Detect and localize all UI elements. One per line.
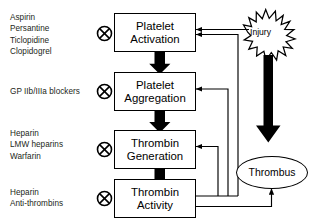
drug-label-line: GP IIb/IIIa blockers bbox=[10, 86, 80, 97]
node-thrombin-activity: Thrombin Activity bbox=[114, 179, 196, 218]
inhibition-marker-thrombin-activity bbox=[98, 192, 112, 206]
node-label-line: Thrombin bbox=[131, 186, 179, 199]
node-thrombus: Thrombus bbox=[236, 156, 308, 189]
drug-group-antiplatelet-agents: Aspirin Persantine Ticlopidine Clopidogr… bbox=[10, 12, 52, 58]
inhibition-marker-thrombin-generation bbox=[98, 143, 112, 157]
drug-group-anticoagulants: Heparin LMW heparins Warfarin bbox=[10, 128, 63, 162]
edge-thrombin-activity-to-platelet-aggregation bbox=[196, 89, 228, 196]
drug-label-line: Persantine bbox=[10, 23, 52, 34]
drug-label-line: Ticlopidine bbox=[10, 35, 52, 46]
node-platelet-aggregation: Platelet Aggregation bbox=[114, 72, 196, 111]
drug-label-line: Clopidogrel bbox=[10, 46, 52, 57]
drug-label-line: Heparin bbox=[10, 128, 63, 139]
inhibition-marker-platelet-activation bbox=[98, 27, 112, 41]
node-platelet-activation: Platelet Activation bbox=[114, 13, 196, 52]
thrombosis-cascade-diagram: Aspirin Persantine Ticlopidine Clopidogr… bbox=[0, 0, 311, 223]
injury-label: Injury bbox=[250, 27, 271, 37]
drug-label-line: Heparin bbox=[10, 187, 63, 198]
node-label-line: Platelet bbox=[136, 20, 174, 33]
node-label-line: Platelet bbox=[136, 79, 174, 92]
thrombus-label: Thrombus bbox=[249, 167, 296, 178]
edge-thrombin-activity-to-platelet-activation bbox=[196, 35, 238, 197]
node-label-line: Thrombin bbox=[131, 137, 179, 150]
node-thrombin-generation: Thrombin Generation bbox=[114, 130, 196, 169]
node-label-line: Activation bbox=[130, 33, 179, 46]
node-label-line: Aggregation bbox=[124, 92, 185, 105]
node-label-line: Activity bbox=[137, 199, 173, 212]
drug-group-gp-iib-iiia-blockers: GP IIb/IIIa blockers bbox=[10, 86, 80, 97]
inhibition-marker-platelet-aggregation bbox=[98, 85, 112, 99]
thick-arrow-injury-to-thrombus bbox=[256, 55, 281, 143]
drug-label-line: LMW heparins bbox=[10, 139, 63, 150]
drug-group-direct-thrombin-inhibitors: Heparin Anti-thrombins bbox=[10, 187, 63, 210]
drug-label-line: Warfarin bbox=[10, 151, 63, 162]
block-arrow-activation-to-aggregation bbox=[149, 52, 170, 75]
edge-thrombin-activity-to-thrombin-generation bbox=[196, 147, 218, 197]
node-label-line: Generation bbox=[127, 150, 183, 163]
edge-thrombin-activity-to-thrombus bbox=[195, 189, 272, 207]
drug-label-line: Aspirin bbox=[10, 12, 52, 23]
drug-label-line: Anti-thrombins bbox=[10, 198, 63, 209]
